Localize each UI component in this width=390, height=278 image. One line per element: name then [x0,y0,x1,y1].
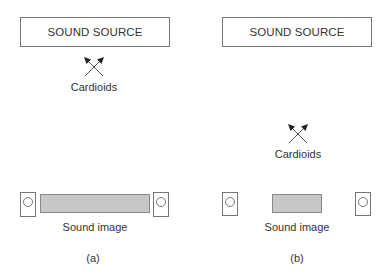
caption-a: (a) [86,252,99,264]
speaker-cone-icon [225,197,235,207]
caption-b: (b) [290,252,303,264]
loudspeaker-left-b [222,192,238,216]
sound-image-bar-a [40,194,150,213]
speaker-cone-icon [23,197,33,207]
sound-image-label-b: Sound image [265,221,330,233]
cardioid-microphones-icon-a [83,56,105,78]
speaker-cone-icon [156,197,166,207]
sound-source-box-b: SOUND SOURCE [222,17,372,47]
loudspeaker-right-a [153,192,169,217]
sound-source-label-b: SOUND SOURCE [249,26,344,38]
cardioids-label-a: Cardioids [71,81,117,93]
speaker-cone-icon [358,197,368,207]
loudspeaker-left-a [20,192,36,217]
cardioid-microphones-icon-b [287,123,309,145]
cardioids-label-b: Cardioids [275,148,321,160]
sound-source-label-a: SOUND SOURCE [47,26,142,38]
sound-image-bar-b [272,194,322,213]
loudspeaker-right-b [355,192,371,216]
sound-source-box-a: SOUND SOURCE [20,17,170,47]
sound-image-label-a: Sound image [63,221,128,233]
